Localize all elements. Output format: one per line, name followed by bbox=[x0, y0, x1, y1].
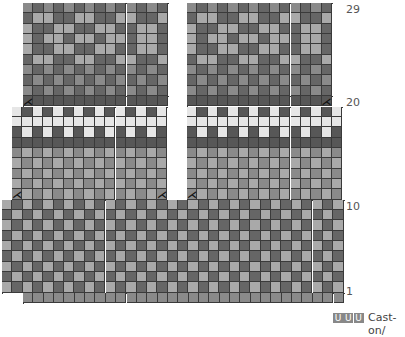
chart-cell bbox=[323, 220, 333, 230]
chart-cell bbox=[322, 117, 332, 127]
chart-cell bbox=[199, 293, 209, 303]
chart-cell bbox=[302, 220, 312, 230]
chart-cell bbox=[187, 96, 197, 106]
chart-cell bbox=[259, 65, 269, 75]
chart-cell bbox=[311, 138, 321, 148]
chart-cell bbox=[323, 200, 333, 210]
chart-cell bbox=[84, 179, 94, 189]
chart-cell bbox=[209, 251, 219, 261]
chart-cell bbox=[95, 262, 105, 272]
chart-cell bbox=[291, 3, 301, 13]
chart-cell bbox=[187, 127, 197, 137]
chart-cell bbox=[311, 148, 321, 158]
chart-cell bbox=[218, 55, 228, 65]
chart-cell bbox=[311, 44, 321, 54]
chart-cell bbox=[250, 220, 260, 230]
chart-cell bbox=[137, 272, 147, 282]
chart-cell bbox=[147, 24, 157, 34]
chart-cell bbox=[280, 107, 290, 117]
chart-cell bbox=[197, 86, 207, 96]
chart-cell bbox=[228, 96, 238, 106]
chart-cell bbox=[197, 169, 207, 179]
chart-cell bbox=[239, 158, 249, 168]
chart-cell bbox=[271, 210, 281, 220]
chart-cell bbox=[311, 3, 321, 13]
chart-cell bbox=[44, 55, 54, 65]
chart-cell bbox=[291, 75, 301, 85]
chart-cell bbox=[228, 138, 238, 148]
chart-cell bbox=[95, 3, 105, 13]
chart-cell bbox=[64, 96, 74, 106]
chart-cell bbox=[240, 220, 250, 230]
chart-cell bbox=[64, 3, 74, 13]
chart-cell bbox=[249, 65, 259, 75]
chart-cell bbox=[249, 3, 259, 13]
chart-cell bbox=[64, 55, 74, 65]
chart-cell bbox=[178, 251, 188, 261]
chart-cell bbox=[157, 107, 167, 117]
chart-cell bbox=[209, 282, 219, 292]
chart-cell bbox=[74, 251, 84, 261]
chart-cell bbox=[323, 262, 333, 272]
chart-cell bbox=[106, 24, 116, 34]
chart-cell bbox=[127, 34, 137, 44]
chart-cell bbox=[270, 65, 280, 75]
chart-cell bbox=[291, 44, 301, 54]
chart-cell bbox=[199, 231, 209, 241]
chart-cell bbox=[313, 293, 323, 303]
chart-cell bbox=[239, 107, 249, 117]
chart-cell bbox=[239, 44, 249, 54]
chart-cell bbox=[54, 272, 64, 282]
chart-cell bbox=[147, 179, 157, 189]
chart-cell bbox=[106, 262, 116, 272]
chart-cell bbox=[12, 148, 22, 158]
chart-cell bbox=[116, 210, 126, 220]
chart-cell bbox=[261, 282, 271, 292]
chart-cell bbox=[208, 107, 218, 117]
chart-cell bbox=[127, 55, 137, 65]
chart-cell bbox=[292, 262, 302, 272]
chart-cell bbox=[106, 231, 116, 241]
chart-cell bbox=[259, 13, 269, 23]
chart-cell bbox=[44, 293, 54, 303]
chart-cell bbox=[147, 293, 157, 303]
chart-cell bbox=[137, 231, 147, 241]
chart-cell bbox=[239, 75, 249, 85]
chart-cell bbox=[105, 138, 115, 148]
chart-cell bbox=[137, 86, 147, 96]
chart-cell bbox=[249, 189, 259, 199]
chart-cell bbox=[219, 220, 229, 230]
chart-cell bbox=[147, 55, 157, 65]
chart-cell bbox=[23, 282, 33, 292]
chart-cell bbox=[116, 220, 126, 230]
chart-cell bbox=[126, 282, 136, 292]
chart-cell bbox=[322, 86, 332, 96]
chart-cell bbox=[281, 272, 291, 282]
chart-cell bbox=[218, 127, 228, 137]
chart-cell bbox=[271, 200, 281, 210]
chart-cell bbox=[23, 44, 33, 54]
chart-cell bbox=[54, 13, 64, 23]
chart-cell bbox=[126, 158, 136, 168]
chart-cell bbox=[147, 13, 157, 23]
chart-cell bbox=[157, 138, 167, 148]
chart-cell bbox=[137, 241, 147, 251]
chart-cell bbox=[23, 34, 33, 44]
chart-cell bbox=[219, 241, 229, 251]
chart-cell bbox=[2, 210, 12, 220]
chart-cell bbox=[74, 127, 84, 137]
chart-cell bbox=[178, 200, 188, 210]
chart-cell bbox=[95, 158, 105, 168]
chart-cell bbox=[12, 241, 22, 251]
chart-cell bbox=[218, 65, 228, 75]
chart-cell bbox=[137, 220, 147, 230]
chart-cell bbox=[219, 210, 229, 220]
chart-cell bbox=[178, 293, 188, 303]
chart-cell bbox=[74, 138, 84, 148]
chart-cell bbox=[85, 34, 95, 44]
chart-cell bbox=[280, 96, 290, 106]
chart-cell bbox=[33, 55, 43, 65]
chart-cell bbox=[116, 34, 126, 44]
chart-cell bbox=[208, 189, 218, 199]
chart-cell bbox=[311, 179, 321, 189]
